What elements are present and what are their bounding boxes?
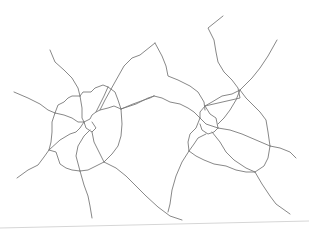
road-network-sketch xyxy=(0,0,309,232)
